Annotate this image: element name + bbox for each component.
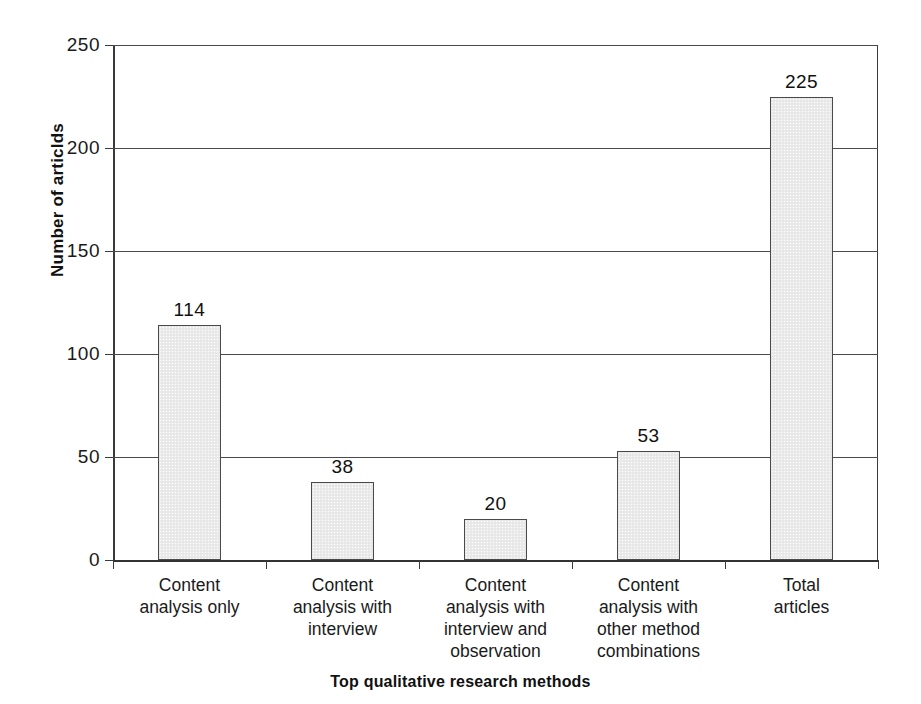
- y-tick-label: 0: [89, 549, 100, 571]
- tick-mark: [105, 560, 113, 561]
- x-tick-label: Content analysis with interview: [293, 574, 392, 640]
- x-axis-separator-tick: [725, 560, 726, 569]
- axis-baseline: [113, 560, 878, 562]
- x-tick-label: Content analysis only: [139, 574, 239, 618]
- tick-mark: [105, 148, 113, 149]
- bar-value-label: 38: [331, 456, 353, 478]
- y-axis-title: Number of articlds: [48, 80, 68, 320]
- gridline: [113, 354, 878, 355]
- x-axis-separator-tick: [266, 560, 267, 569]
- y-tick-label: 50: [78, 446, 100, 468]
- bar-value-label: 225: [785, 71, 818, 93]
- bar-value-label: 20: [484, 493, 506, 515]
- gridline: [113, 45, 878, 46]
- x-tick-label: Total articles: [763, 574, 840, 618]
- bar: 225: [770, 97, 833, 561]
- bar-value-label: 114: [174, 299, 206, 321]
- y-tick-label: 200: [67, 137, 100, 159]
- tick-mark: [105, 45, 113, 46]
- x-tick-label: Content analysis with other method combi…: [597, 574, 700, 662]
- plot-area: 050100150200250 114382053225 Content ana…: [113, 45, 878, 560]
- y-tick-label: 100: [67, 343, 100, 365]
- x-axis-end-tick: [878, 560, 879, 569]
- gridline: [113, 148, 878, 149]
- plot-frame: [113, 45, 878, 560]
- gridline: [113, 457, 878, 458]
- y-tick-label: 150: [67, 240, 100, 262]
- bar: 53: [617, 451, 680, 560]
- x-axis-separator-tick: [572, 560, 573, 569]
- x-tick-label: Content analysis with interview and obse…: [444, 574, 547, 662]
- bar: 38: [311, 482, 374, 560]
- bar: 20: [464, 519, 527, 560]
- bar-chart: Number of articlds 050100150200250 11438…: [0, 0, 921, 704]
- x-axis-end-tick: [113, 560, 114, 569]
- tick-mark: [105, 457, 113, 458]
- bar: 114: [158, 325, 221, 560]
- x-axis-title: Top qualitative research methods: [0, 673, 921, 691]
- tick-mark: [105, 354, 113, 355]
- gridline: [113, 251, 878, 252]
- tick-mark: [105, 251, 113, 252]
- bar-value-label: 53: [637, 425, 659, 447]
- x-axis-separator-tick: [419, 560, 420, 569]
- y-tick-label: 250: [67, 34, 100, 56]
